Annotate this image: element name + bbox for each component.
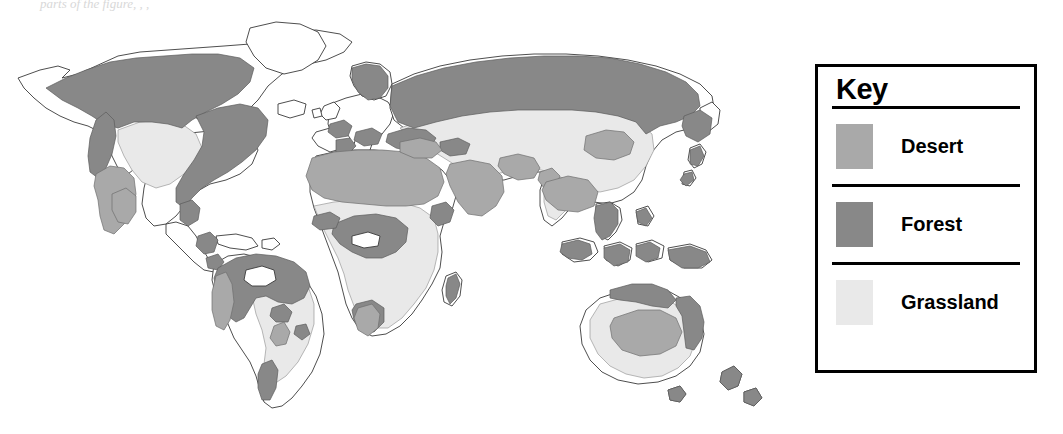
world-map bbox=[0, 8, 790, 428]
grassland-swatch bbox=[836, 280, 873, 325]
grassland-label: Grassland bbox=[901, 291, 999, 314]
key-item-grassland: Grassland bbox=[818, 265, 1034, 340]
desert-swatch bbox=[836, 124, 873, 169]
key-item-forest: Forest bbox=[818, 187, 1034, 262]
key-item-desert: Desert bbox=[818, 109, 1034, 184]
key-title: Key bbox=[836, 73, 1034, 106]
forest-label: Forest bbox=[901, 213, 962, 236]
map-key-legend: Key Desert Forest Grassland bbox=[815, 64, 1037, 373]
biome-world-map-figure: parts of the figure, , , bbox=[0, 0, 1063, 434]
desert-label: Desert bbox=[901, 135, 963, 158]
forest-swatch bbox=[836, 202, 873, 247]
